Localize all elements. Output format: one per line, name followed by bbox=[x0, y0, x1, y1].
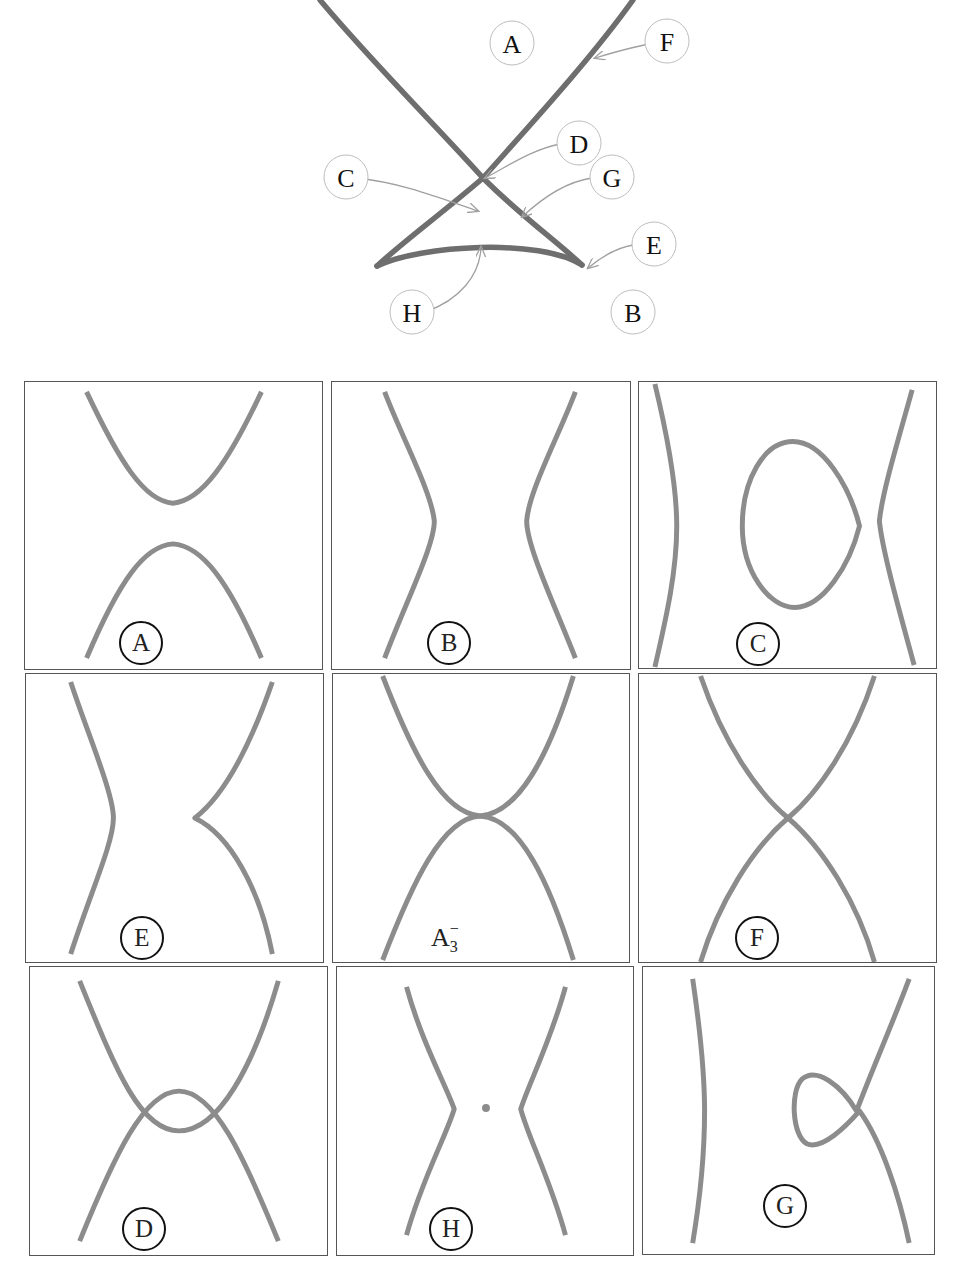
panel-badge-H: H bbox=[429, 1207, 473, 1251]
callout-D: D bbox=[557, 121, 601, 165]
curve-lower-parabola bbox=[80, 1091, 279, 1241]
curve-oval bbox=[742, 442, 859, 608]
curve-upper-parabola bbox=[383, 676, 574, 816]
curve-upper-parabola bbox=[87, 392, 262, 503]
panel-badge-G: G bbox=[763, 1184, 807, 1228]
curve-upper-parabola bbox=[80, 981, 279, 1131]
curve-left-corner bbox=[407, 987, 455, 1235]
curve-right-corner bbox=[521, 987, 566, 1235]
svg-text:D: D bbox=[570, 130, 589, 159]
callout-A: A bbox=[490, 21, 534, 65]
callout-E: E bbox=[632, 222, 676, 266]
panel-badge-E: E bbox=[120, 916, 164, 960]
callout-F: F bbox=[645, 19, 689, 63]
svg-text:A: A bbox=[503, 30, 522, 59]
panel-badge-B: B bbox=[427, 621, 471, 665]
callout-B: B bbox=[611, 290, 655, 334]
panel-E: E bbox=[25, 673, 324, 963]
curve-lower-parabola bbox=[87, 544, 262, 658]
panel-G: G bbox=[642, 966, 935, 1255]
callout-H: H bbox=[390, 290, 434, 334]
panel-label-A3-minus: A3− bbox=[431, 920, 459, 956]
curve-right bbox=[527, 392, 576, 658]
panel-A: A bbox=[24, 381, 323, 670]
panel-badge-F: F bbox=[735, 916, 779, 960]
panel-B: B bbox=[331, 381, 631, 670]
panel-A3: A3− bbox=[332, 673, 630, 963]
arrow-H bbox=[425, 247, 481, 312]
curve-ascending bbox=[701, 676, 875, 962]
svg-text:C: C bbox=[337, 164, 354, 193]
callout-G: G bbox=[590, 155, 634, 199]
curve-left bbox=[385, 392, 435, 658]
callout-C: C bbox=[324, 155, 368, 199]
panel-badge-A: A bbox=[119, 621, 163, 665]
arrow-E bbox=[588, 245, 633, 268]
isolated-point bbox=[482, 1104, 490, 1112]
curve-left-smooth bbox=[71, 682, 114, 954]
bifurcation-left-branch bbox=[320, 0, 582, 265]
panel-C: C bbox=[638, 381, 937, 669]
bifurcation-diagram: A F D C G E H B bbox=[0, 0, 969, 345]
curve-left bbox=[693, 979, 705, 1243]
curve-left bbox=[655, 384, 677, 667]
panel-D: D bbox=[29, 966, 328, 1256]
curve-loop bbox=[794, 979, 909, 1243]
svg-text:E: E bbox=[646, 231, 662, 260]
svg-text:G: G bbox=[603, 164, 622, 193]
curve-right bbox=[879, 390, 914, 665]
svg-text:F: F bbox=[660, 28, 674, 57]
panel-badge-C: C bbox=[736, 622, 780, 666]
arrow-G bbox=[522, 178, 592, 217]
panel-F: F bbox=[638, 673, 937, 963]
svg-text:B: B bbox=[624, 299, 641, 328]
svg-text:H: H bbox=[403, 299, 422, 328]
panel-H: H bbox=[336, 966, 634, 1256]
curve-right-cusp bbox=[195, 682, 272, 954]
panel-badge-D: D bbox=[122, 1207, 166, 1251]
curve-lower-parabola bbox=[383, 816, 574, 960]
